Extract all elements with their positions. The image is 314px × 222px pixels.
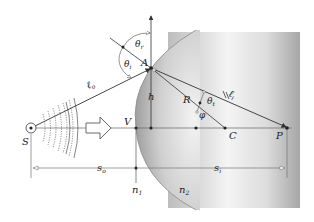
- optics-diagram: S V A h R C P ℓo ℓi θi θr θt φ so si n1 …: [0, 0, 314, 222]
- point-source-circle-icon: [26, 123, 36, 133]
- center-point: [223, 126, 226, 129]
- incident-ray: [31, 69, 150, 128]
- normal-point-marker: [122, 46, 125, 49]
- theta-t-vertex: [199, 102, 202, 105]
- hollow-arrow-right-icon: [86, 117, 111, 139]
- label-l-o: ℓo: [85, 78, 97, 92]
- label-P: P: [275, 130, 283, 141]
- phi-open: [196, 111, 199, 114]
- label-theta-i: θi: [124, 59, 131, 70]
- image-point: [285, 126, 289, 130]
- label-V: V: [124, 116, 133, 127]
- label-R: R: [182, 94, 191, 105]
- radius-foot-point: [194, 126, 197, 129]
- theta-t-open-top: [203, 91, 206, 94]
- label-s-o: so: [97, 162, 106, 174]
- incidence-point: [149, 66, 153, 70]
- label-h: h: [148, 91, 154, 102]
- vertex-distance-point: [134, 166, 137, 169]
- object-distance-arrow: [33, 166, 38, 170]
- label-A: A: [140, 57, 148, 68]
- incidence-open-marker: [153, 69, 156, 72]
- label-n1: n1: [132, 184, 142, 196]
- label-theta-r: θr: [135, 39, 144, 50]
- label-C: C: [229, 130, 237, 141]
- height-foot-point: [149, 126, 152, 129]
- label-phi: φ: [199, 110, 206, 120]
- label-S: S: [22, 136, 29, 147]
